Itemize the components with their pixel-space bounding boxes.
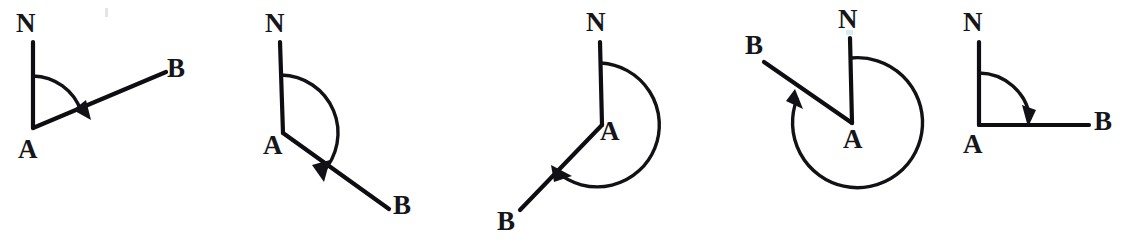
figure-4-group [764, 38, 923, 188]
figure-4-ray-label: B [745, 32, 763, 59]
figure-4-vertex-label: A [843, 126, 863, 153]
figure-1-vertex-label: A [18, 136, 38, 163]
diagram-canvas: N A B N A B N A B N A B N A B [0, 0, 1125, 251]
figure-5-ray-label: B [1094, 108, 1112, 135]
figure-2-north-label: N [265, 10, 285, 37]
figure-4-target-ray [764, 62, 852, 123]
figure-2-north-ray [280, 42, 283, 133]
figure-1-angle-arc [33, 76, 81, 111]
figure-5-north-label: N [963, 9, 983, 36]
figure-2-angle-arc [281, 75, 338, 173]
bearings-figure-layer [0, 0, 1125, 251]
figure-5-vertex-label: A [963, 131, 983, 158]
figure-3-north-ray [600, 42, 602, 125]
figure-1-group [33, 42, 166, 128]
figure-5-group [979, 42, 1089, 127]
figure-3-group [520, 42, 659, 210]
figure-2-arrow-icon [312, 160, 330, 182]
figure-1-ray-label: B [167, 55, 185, 82]
figure-4-north-ray [850, 38, 852, 123]
figure-5-angle-arc [979, 73, 1030, 118]
figure-4-angle-arc [793, 58, 923, 188]
scan-artifact-gray [105, 8, 108, 17]
figure-1-north-label: N [16, 10, 36, 37]
figure-2-ray-label: B [393, 192, 411, 219]
figure-3-target-ray [520, 125, 602, 210]
scan-artifact-cyan [846, 30, 853, 35]
figure-3-ray-label: B [497, 208, 515, 235]
figure-2-group [280, 42, 389, 209]
figure-4-north-label: N [838, 6, 858, 33]
figure-3-vertex-label: A [600, 118, 620, 145]
figure-3-north-label: N [586, 9, 606, 36]
figure-2-vertex-label: A [263, 132, 283, 159]
